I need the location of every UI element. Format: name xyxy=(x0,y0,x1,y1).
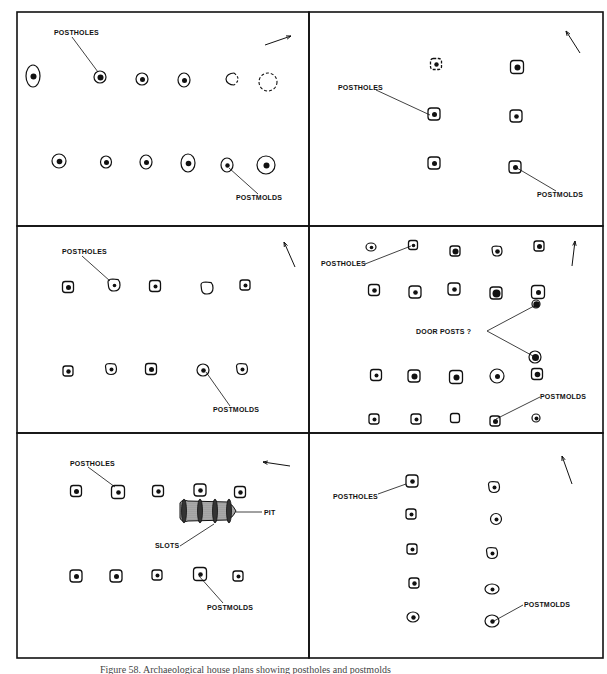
postmold xyxy=(411,548,415,552)
postmold xyxy=(372,288,377,293)
posthole xyxy=(428,157,440,169)
feature-label: POSTHOLES xyxy=(338,84,430,115)
posthole xyxy=(409,241,418,250)
posthole xyxy=(485,584,499,594)
panel-border xyxy=(309,433,603,658)
postmold xyxy=(410,479,415,484)
feature-label xyxy=(487,331,533,356)
postmold xyxy=(31,74,37,80)
leader-line xyxy=(378,484,406,494)
postmold xyxy=(495,374,500,379)
posthole xyxy=(146,364,157,375)
leader-line xyxy=(487,306,534,331)
svg-text:POSTMOLDS: POSTMOLDS xyxy=(213,406,259,413)
panel-6: POSTHOLESPOSTMOLDS xyxy=(309,433,603,658)
postmold xyxy=(434,62,438,66)
feature-label: PIT xyxy=(236,509,276,516)
postmold xyxy=(415,418,419,422)
posthole xyxy=(511,61,524,74)
posthole xyxy=(194,568,207,581)
postmold xyxy=(491,552,495,556)
postmold xyxy=(412,244,416,248)
posthole xyxy=(150,281,161,292)
posthole xyxy=(369,285,380,296)
posthole xyxy=(110,570,122,582)
posthole xyxy=(369,414,379,424)
posthole xyxy=(26,65,40,87)
postmold xyxy=(113,284,117,288)
panel-2: POSTHOLESPOSTMOLDS xyxy=(309,12,603,226)
svg-text:POSTHOLES: POSTHOLES xyxy=(70,460,115,467)
posthole xyxy=(509,161,521,173)
postmold xyxy=(156,574,160,578)
posthole xyxy=(63,366,73,376)
posthole xyxy=(70,570,82,582)
postmold xyxy=(493,486,497,490)
postmold xyxy=(453,249,459,255)
leader-line xyxy=(199,576,223,603)
posthole xyxy=(450,371,463,384)
postmold xyxy=(411,615,415,619)
panel-5: POSTHOLESPITSLOTSPOSTMOLDS xyxy=(17,433,309,658)
feature-label: POSTHOLES xyxy=(54,29,99,72)
partial-posthole xyxy=(226,73,238,85)
postmold xyxy=(412,374,418,380)
leader-line xyxy=(82,256,110,281)
postmold xyxy=(198,488,203,493)
postmold xyxy=(186,161,192,167)
posthole xyxy=(136,73,148,85)
posthole xyxy=(532,286,545,299)
feature-label: POSTMOLDS xyxy=(229,168,282,201)
postmold xyxy=(537,244,542,249)
feature-label: SLOTS xyxy=(155,524,214,549)
leader-line xyxy=(376,90,430,115)
postmold xyxy=(513,165,518,170)
leader-line xyxy=(88,467,115,487)
posthole xyxy=(428,108,440,120)
posthole xyxy=(237,364,248,375)
postmold xyxy=(74,489,79,494)
postmold xyxy=(370,246,374,250)
posthole xyxy=(532,369,543,380)
posthole xyxy=(106,364,117,375)
feature-label: DOOR POSTS ? xyxy=(416,306,534,335)
posthole xyxy=(406,509,416,519)
pit-feature xyxy=(180,499,236,523)
posthole xyxy=(366,243,376,251)
postmold xyxy=(110,368,114,372)
slot-feature xyxy=(182,499,187,523)
svg-text:POSTHOLES: POSTHOLES xyxy=(333,493,378,500)
north-arrow-icon xyxy=(263,461,290,466)
postmold xyxy=(535,417,539,421)
north-arrow-icon xyxy=(572,241,576,266)
posthole xyxy=(408,370,420,382)
posthole xyxy=(510,110,522,122)
postmold xyxy=(493,290,501,298)
postmold xyxy=(432,112,437,117)
posthole xyxy=(140,155,152,169)
figure-caption: Figure 58. Archaeological house plans sh… xyxy=(100,664,391,674)
postmold xyxy=(264,163,270,169)
postmold xyxy=(490,619,494,623)
svg-text:DOOR POSTS ?: DOOR POSTS ? xyxy=(416,328,471,335)
postmold xyxy=(432,161,437,166)
leader-line xyxy=(72,37,98,72)
postmold xyxy=(225,163,229,167)
posthole xyxy=(491,514,502,525)
posthole xyxy=(409,286,421,298)
leader-line xyxy=(229,168,258,194)
partial-posthole xyxy=(431,59,442,70)
posthole xyxy=(194,484,206,496)
postmold xyxy=(454,375,460,381)
postmold xyxy=(532,354,539,361)
leader-line xyxy=(180,524,214,546)
posthole xyxy=(63,282,74,293)
postmold xyxy=(452,287,457,292)
north-arrow-icon xyxy=(265,36,291,45)
posthole xyxy=(201,282,213,294)
postmold xyxy=(515,65,521,71)
postmold xyxy=(410,513,414,517)
posthole xyxy=(450,246,460,256)
posthole xyxy=(112,486,125,499)
panel-4: POSTHOLESDOOR POSTS ?POSTMOLDS xyxy=(309,226,603,433)
